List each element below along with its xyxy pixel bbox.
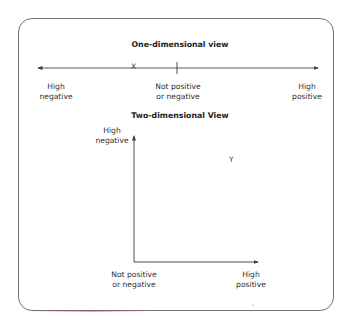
one-d-right-label-line1: High: [287, 82, 327, 92]
two-d-y-label-line2: negative: [92, 136, 132, 146]
two-d-origin-label: Not positive or negative: [104, 270, 164, 290]
one-d-center-label-line1: Not positive: [148, 82, 208, 92]
one-d-left-label: High negative: [36, 82, 76, 102]
two-d-x-label: High positive: [231, 270, 271, 290]
two-d-x-label-line1: High: [231, 270, 271, 280]
two-d-x-label-line2: positive: [231, 280, 271, 290]
one-d-left-label-line1: High: [36, 82, 76, 92]
one-d-point-x: X: [131, 62, 136, 71]
one-d-left-label-line2: negative: [36, 92, 76, 102]
one-d-title: One-dimensional view: [130, 40, 230, 49]
two-d-title: Two-dimensional View: [128, 111, 232, 120]
one-d-right-label: High positive: [287, 82, 327, 102]
two-d-origin-label-line1: Not positive: [104, 270, 164, 280]
two-d-point-y: Y: [229, 155, 234, 164]
one-d-center-label-line2: or negative: [148, 92, 208, 102]
two-d-y-label-line1: High: [92, 126, 132, 136]
one-d-right-label-line2: positive: [287, 92, 327, 102]
two-d-origin-label-line2: or negative: [104, 280, 164, 290]
stray-dot: [252, 304, 253, 305]
one-d-center-label: Not positive or negative: [148, 82, 208, 102]
two-d-y-label: High negative: [92, 126, 132, 146]
